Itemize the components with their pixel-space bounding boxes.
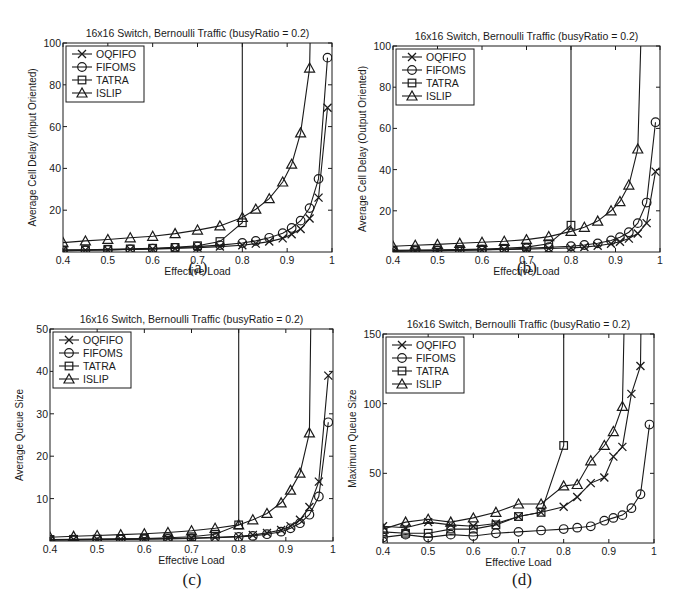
chart-title: 16x16 Switch, Bernoulli Traffic (busyRat… [415, 30, 639, 42]
series-line-oqfifo [50, 376, 328, 540]
x-tick-label: 0.8 [235, 254, 250, 266]
caption-b: (b) [497, 258, 557, 278]
legend-label-fifoms: FIFOMS [96, 61, 136, 73]
legend-label-fifoms: FIFOMS [416, 352, 456, 364]
legend-label-fifoms: FIFOMS [83, 347, 123, 359]
y-axis-label: Average Cell Delay (Output Oriented) [357, 66, 368, 232]
legend: OQFIFOFIFOMSTATRAISLIP [386, 337, 464, 393]
x-marker-icon [587, 479, 595, 487]
x-tick-label: 0.6 [137, 543, 152, 555]
legend-label-islip: ISLIP [426, 90, 452, 102]
legend-label-tatra: TATRA [83, 360, 116, 372]
y-tick-label: 20 [379, 205, 391, 217]
legend: OQFIFOFIFOMSTATRAISLIP [396, 49, 474, 105]
x-marker-icon [306, 215, 314, 223]
y-tick-label: 100 [373, 40, 391, 52]
x-tick-label: 0.9 [608, 254, 623, 266]
legend-label-islip: ISLIP [416, 378, 442, 390]
x-tick-label: 1 [330, 543, 336, 555]
caption-a: (a) [168, 258, 228, 278]
legend-label-oqfifo: OQFIFO [426, 51, 466, 63]
x-tick-label: 0.4 [376, 545, 391, 557]
y-axis-label: Average Queue Size [14, 389, 25, 482]
legend-label-tatra: TATRA [416, 365, 449, 377]
chart-panel-b: 16x16 Switch, Bernoulli Traffic (busyRat… [357, 0, 663, 277]
series-line-fifoms [393, 122, 656, 251]
x-tick-label: 0.5 [90, 543, 105, 555]
chart-canvas: 16x16 Switch, Bernoulli Traffic (busyRat… [0, 0, 673, 608]
chart-panel-d: 16x16 Switch, Bernoulli Traffic (busyRat… [347, 0, 657, 568]
legend-label-oqfifo: OQFIFO [416, 339, 456, 351]
y-tick-label: 40 [379, 164, 391, 176]
y-axis-label: Average Cell Delay (Input Oriented) [27, 68, 38, 226]
x-tick-label: 0.9 [280, 254, 295, 266]
y-tick-label: 150 [363, 328, 381, 340]
caption-d: (d) [492, 570, 552, 590]
legend: OQFIFOFIFOMSTATRAISLIP [66, 46, 144, 102]
x-tick-label: 1 [329, 254, 335, 266]
series-line-fifoms [383, 425, 650, 542]
chart-panel-a: 16x16 Switch, Bernoulli Traffic (busyRat… [27, 0, 335, 277]
x-axis-label: Effective Load [485, 556, 552, 568]
y-tick-label: 100 [43, 37, 61, 49]
x-tick-label: 0.8 [564, 254, 579, 266]
x-tick-label: 0.5 [101, 254, 116, 266]
y-tick-label: 40 [49, 162, 61, 174]
y-tick-label: 30 [36, 408, 48, 420]
y-tick-label: 60 [49, 121, 61, 133]
x-tick-label: 0.6 [145, 254, 160, 266]
legend-label-oqfifo: OQFIFO [96, 48, 136, 60]
x-marker-icon [609, 453, 617, 461]
legend-label-tatra: TATRA [426, 77, 459, 89]
x-tick-label: 0.5 [421, 545, 436, 557]
x-tick-label: 0.4 [386, 254, 401, 266]
y-tick-label: 60 [379, 122, 391, 134]
x-marker-icon [560, 503, 568, 511]
x-tick-label: 1 [651, 545, 657, 557]
legend-label-islip: ISLIP [96, 87, 122, 99]
x-marker-icon [600, 474, 608, 482]
y-tick-label: 80 [49, 79, 61, 91]
x-marker-icon [573, 493, 581, 501]
chart-title: 16x16 Switch, Bernoulli Traffic (busyRat… [407, 318, 631, 330]
legend-label-fifoms: FIFOMS [426, 64, 466, 76]
x-tick-label: 0.6 [475, 254, 490, 266]
x-tick-label: 0.6 [466, 545, 481, 557]
x-marker-icon [634, 229, 642, 237]
x-marker-icon [297, 225, 305, 233]
y-tick-label: 50 [36, 323, 48, 335]
y-tick-label: 50 [369, 467, 381, 479]
chart-title: 16x16 Switch, Bernoulli Traffic (busyRat… [86, 27, 310, 39]
x-tick-label: 0.4 [56, 254, 71, 266]
x-tick-label: 0.9 [279, 543, 294, 555]
x-tick-label: 0.9 [602, 545, 617, 557]
y-tick-label: 10 [36, 493, 48, 505]
x-tick-label: 0.8 [231, 543, 246, 555]
legend-label-tatra: TATRA [96, 74, 129, 86]
figure: 16x16 Switch, Bernoulli Traffic (busyRat… [0, 0, 673, 608]
x-tick-label: 0.4 [43, 543, 58, 555]
x-tick-label: 0.5 [430, 254, 445, 266]
y-tick-label: 20 [49, 204, 61, 216]
legend-label-islip: ISLIP [83, 373, 109, 385]
y-tick-label: 80 [379, 81, 391, 93]
x-tick-label: 1 [657, 254, 663, 266]
caption-c: (c) [162, 570, 222, 590]
x-axis-label: Effective Load [158, 554, 225, 566]
chart-panel-c: 16x16 Switch, Bernoulli Traffic (busyRat… [14, 0, 336, 566]
legend-label-oqfifo: OQFIFO [83, 334, 123, 346]
y-tick-label: 40 [36, 365, 48, 377]
chart-title: 16x16 Switch, Bernoulli Traffic (busyRat… [80, 313, 304, 325]
y-tick-label: 20 [36, 450, 48, 462]
x-tick-label: 0.8 [556, 545, 571, 557]
y-tick-label: 100 [363, 398, 381, 410]
legend: OQFIFOFIFOMSTATRAISLIP [53, 332, 131, 388]
y-axis-label: Maximum Queue Size [347, 389, 358, 488]
